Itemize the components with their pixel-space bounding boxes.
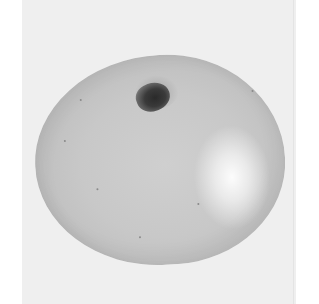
apple-speck — [80, 99, 82, 101]
apple-speck — [64, 140, 66, 142]
apple-speck — [139, 236, 141, 238]
photo-border-line — [293, 0, 294, 304]
apple-speck — [96, 188, 98, 190]
apple-speck — [251, 90, 253, 92]
apple-speck — [197, 203, 199, 205]
